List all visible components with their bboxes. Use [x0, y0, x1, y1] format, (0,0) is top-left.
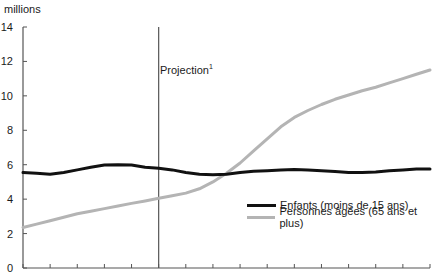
y-tick-label: 12	[1, 55, 13, 67]
chart: millions 02468101214 Projection1 Enfants…	[0, 0, 441, 279]
series-line-children	[23, 165, 430, 175]
legend-swatch-elderly	[247, 216, 275, 219]
y-tick-label: 8	[7, 124, 13, 136]
y-tick-label: 2	[7, 228, 13, 240]
y-axis: 02468101214	[1, 21, 27, 274]
y-tick-label: 14	[1, 21, 13, 33]
legend-item-elderly: Personnes âgées (65 ans et plus)	[247, 211, 441, 223]
legend: Enfants (moins de 15 ans) Personnes âgée…	[247, 199, 441, 223]
projection-footnote-marker: 1	[209, 63, 213, 70]
y-tick-label: 10	[1, 90, 13, 102]
legend-swatch-children	[247, 204, 276, 207]
projection-annotation: Projection1	[160, 64, 213, 76]
y-tick-label: 0	[7, 262, 13, 274]
legend-label-elderly: Personnes âgées (65 ans et plus)	[279, 205, 441, 229]
projection-label: Projection	[160, 64, 209, 76]
x-axis	[23, 264, 430, 268]
y-tick-label: 4	[7, 193, 13, 205]
y-tick-label: 6	[7, 159, 13, 171]
plot-area: 02468101214	[0, 0, 441, 279]
